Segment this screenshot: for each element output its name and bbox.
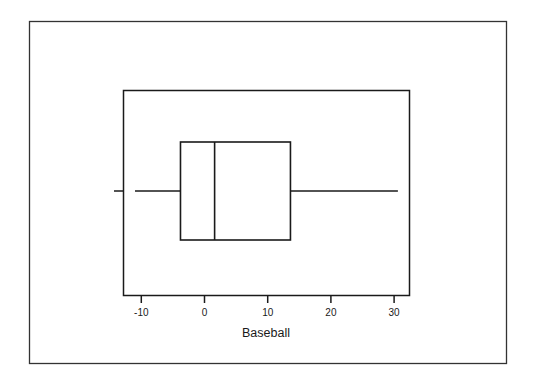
iqr-box — [180, 142, 290, 240]
x-axis-title: Baseball — [242, 326, 290, 340]
x-tick-label: -10 — [134, 307, 149, 318]
boxplot-chart: -100102030 Baseball — [0, 0, 535, 390]
x-tick-label: 0 — [202, 307, 208, 318]
box-plot — [135, 142, 398, 240]
plot-area-frame — [124, 91, 410, 296]
x-tick-label: 20 — [325, 307, 337, 318]
x-tick-label: 10 — [262, 307, 274, 318]
x-tick-label: 30 — [389, 307, 401, 318]
x-axis: -100102030 — [134, 296, 400, 318]
